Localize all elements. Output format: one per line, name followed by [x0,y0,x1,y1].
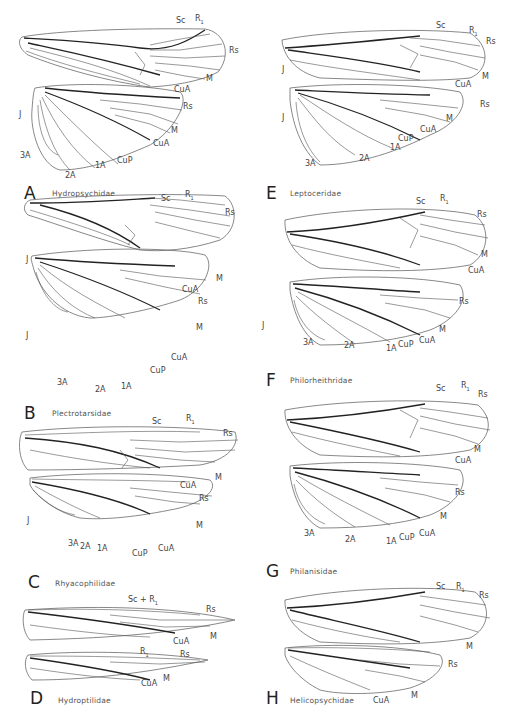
panel-c-forewing [20,427,238,470]
label-r1: R1 [469,27,478,37]
family-name-d: Hydroptilidae [58,697,111,705]
label-m: M [482,73,489,81]
label-sc: Sc [436,385,445,393]
label-cup: CuP [117,157,132,165]
label-r1: R1 [440,195,449,205]
panel-letter-c: C [28,574,40,591]
panel-h-forewing [285,588,490,644]
label-cua: CuA [419,530,435,538]
label-1a: 1A [390,144,401,152]
label-m: M [171,127,178,135]
family-name-f: Philorheithridae [290,377,352,385]
label-sc: Sc [436,22,445,30]
label-m: M [216,275,223,283]
label-m: M [474,446,481,454]
label-rs: Rs [448,661,458,669]
label-cua: CuA [182,286,198,294]
label-rs: Rs [479,592,489,600]
label-rs: Rs [225,209,235,217]
label-m: M [446,115,453,123]
label-rs: Rs [486,38,496,46]
panel-a-forewing [20,29,226,87]
label-sc: Sc [416,198,425,206]
label-cua: CuA [373,697,389,705]
label-r1-sub: 1 [467,386,470,392]
label-r1: R1 [195,15,204,25]
panel-g-forewing [285,401,490,457]
label-rs: Rs [477,211,487,219]
label-2a: 2A [80,543,91,551]
panel-b-forewing [24,195,234,251]
label-rs: Rs [480,101,490,109]
panel-letter-f: F [266,372,276,389]
panel-letter-g: G [266,563,279,580]
label-2a: 2A [359,155,370,163]
label-3a: 3A [68,540,79,548]
label-r1-sub: 1 [191,195,194,201]
panel-letter-d: D [30,690,43,707]
label-1a: 1A [386,538,397,546]
label-j: J [26,256,28,264]
label-r1: R1 [140,648,149,658]
label-m: M [466,643,473,651]
label-3a: 3A [303,339,314,347]
label-j: J [27,517,29,525]
label-cua: CuA [153,140,169,148]
label-r1-sub: 1 [462,587,465,593]
label-r1: R1 [186,415,195,425]
panel-letter-h: H [266,690,279,707]
label-rs: Rs [199,495,209,503]
label-cup: CuP [398,135,413,143]
label-r1-sub: 1 [192,419,195,425]
panel-letter-a: A [24,185,36,202]
label-rs: Rs [455,489,465,497]
label-1a: 1A [97,545,108,553]
label-cua: CuA [420,126,436,134]
label-sc: Sc [436,583,445,591]
panel-b-hindwing [31,249,209,318]
label-cua: CuA [173,638,189,646]
label-rs: Rs [478,391,488,399]
family-name-b: Plectrotarsidae [52,410,111,418]
label-rs: Rs [459,298,469,306]
panel-a-hindwing [32,85,183,170]
label-rs: Rs [180,651,190,659]
label-3a: 3A [57,379,68,387]
family-name-h: Helicopsychidae [290,697,354,705]
label-j: J [282,66,284,74]
panel-e-forewing [282,30,485,80]
label-m: M [210,633,217,641]
label-rs: Rs [183,103,193,111]
label-m: M [196,324,203,332]
panel-d-forewing [23,607,235,640]
panel-g-hindwing [290,463,463,528]
panel-f-hindwing [290,277,463,345]
label-sc-r1: Sc + R1 [128,596,158,606]
label-cua: CuA [455,457,471,465]
label-sc-r1-text: Sc + R [128,595,155,604]
label-m: M [481,251,488,259]
label-cua: CuA [455,81,471,89]
label-m: M [215,474,222,482]
label-m: M [411,692,418,700]
panel-e-hindwing [290,85,463,165]
label-r1: R1 [456,583,465,593]
label-1a: 1A [121,383,132,391]
label-2a: 2A [344,342,355,350]
label-2a: 2A [95,386,106,394]
label-cup: CuP [150,367,165,375]
label-rs: Rs [198,298,208,306]
label-rs: Rs [229,47,239,55]
label-cua: CuA [419,337,435,345]
label-j: J [26,332,28,340]
label-3a: 3A [305,160,316,168]
label-2a: 2A [345,536,356,544]
label-j: J [262,322,264,330]
label-r1: R1 [461,382,470,392]
label-cup: CuP [399,534,414,542]
label-m: M [439,326,446,334]
wing-drawings [0,0,515,715]
label-r1-sub: 1 [146,652,149,658]
panel-f-forewing [285,209,488,271]
label-cua: CuA [174,86,190,94]
